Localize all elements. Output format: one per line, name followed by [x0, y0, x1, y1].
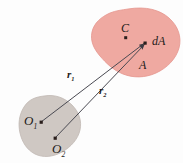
point-dot-O2	[54, 137, 57, 140]
label-area-A-text: A	[139, 58, 146, 72]
label-origin-O1-sub: 1	[33, 122, 37, 131]
point-dot-centroid	[124, 36, 127, 39]
figure-container: C dA A r1 r2 O1 O2	[0, 0, 183, 163]
label-element-dA: dA	[152, 35, 165, 47]
label-origin-O2-sub: 2	[61, 150, 65, 159]
vector-r1-line	[41, 44, 144, 123]
label-vector-r2-sub: 2	[103, 91, 106, 98]
label-origin-O2-base: O	[52, 141, 61, 156]
label-element-dA-text: dA	[152, 34, 165, 48]
label-vector-r1: r1	[67, 69, 74, 83]
area-region-A-shape	[91, 8, 180, 77]
point-dot-O1	[40, 121, 43, 124]
label-origin-O1: O1	[24, 114, 37, 130]
label-origin-O1-base: O	[24, 113, 33, 128]
label-centroid-C-text: C	[121, 21, 129, 35]
label-vector-r1-sub: 1	[71, 75, 74, 82]
diagram-canvas	[0, 0, 183, 163]
label-centroid-C: C	[121, 22, 129, 34]
point-dot-dA	[144, 42, 147, 45]
label-vector-r2: r2	[99, 85, 106, 99]
label-area-A: A	[139, 59, 146, 71]
label-origin-O2: O2	[52, 142, 65, 158]
